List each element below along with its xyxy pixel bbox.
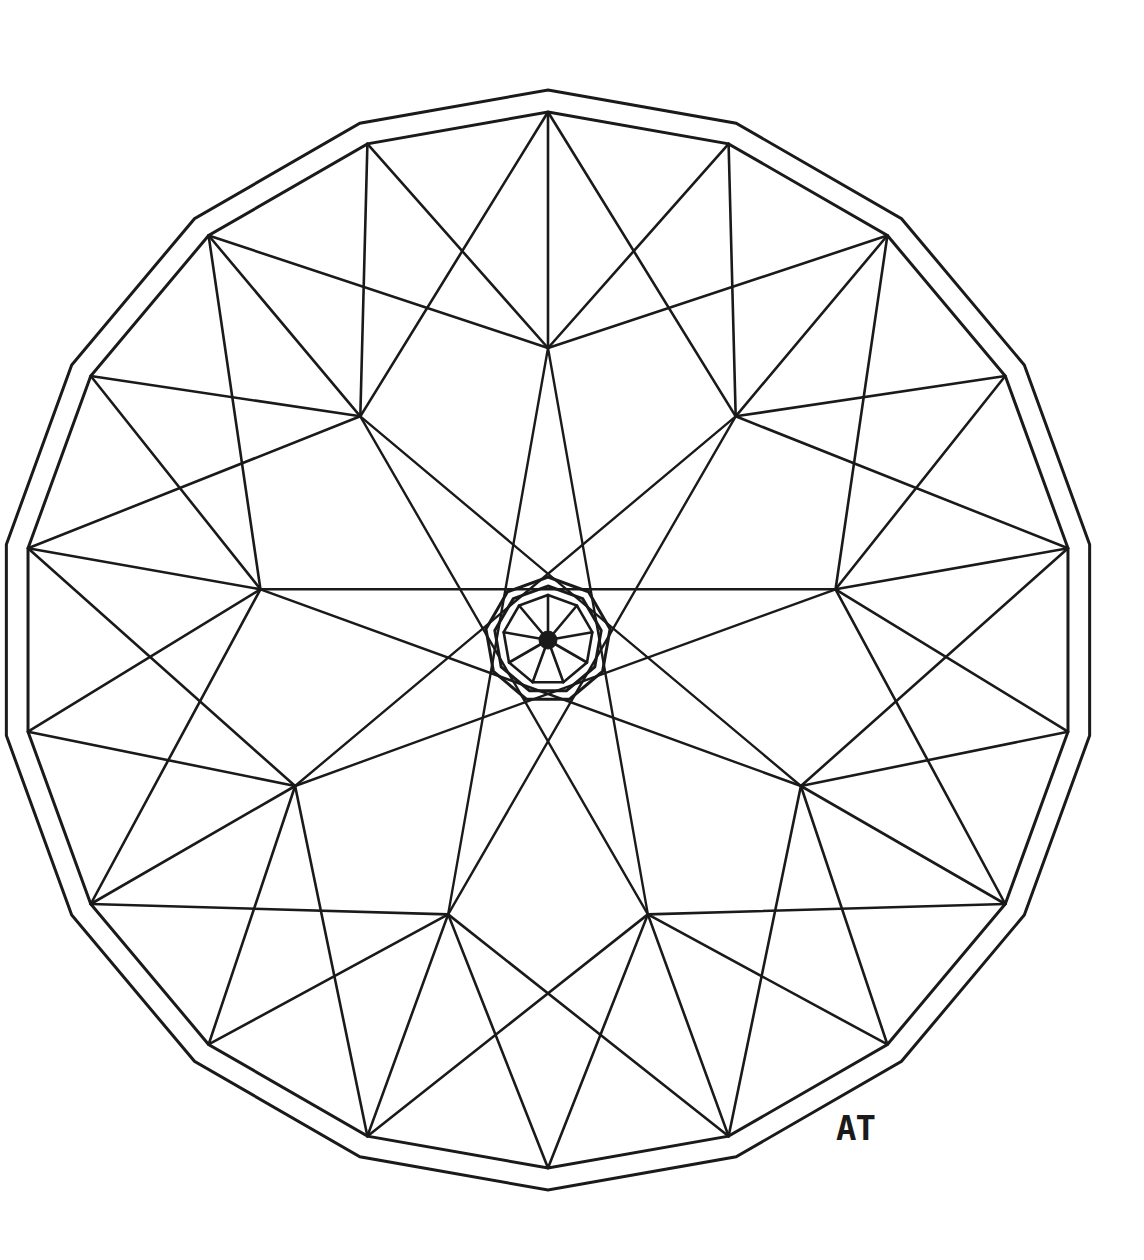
artist-signature: AT <box>836 1108 875 1148</box>
center-hub-dot <box>539 631 557 649</box>
paper-background <box>0 0 1144 1260</box>
center-dot <box>539 631 557 649</box>
drawing-canvas: AT <box>0 0 1144 1260</box>
mandala-figure <box>0 0 1144 1260</box>
